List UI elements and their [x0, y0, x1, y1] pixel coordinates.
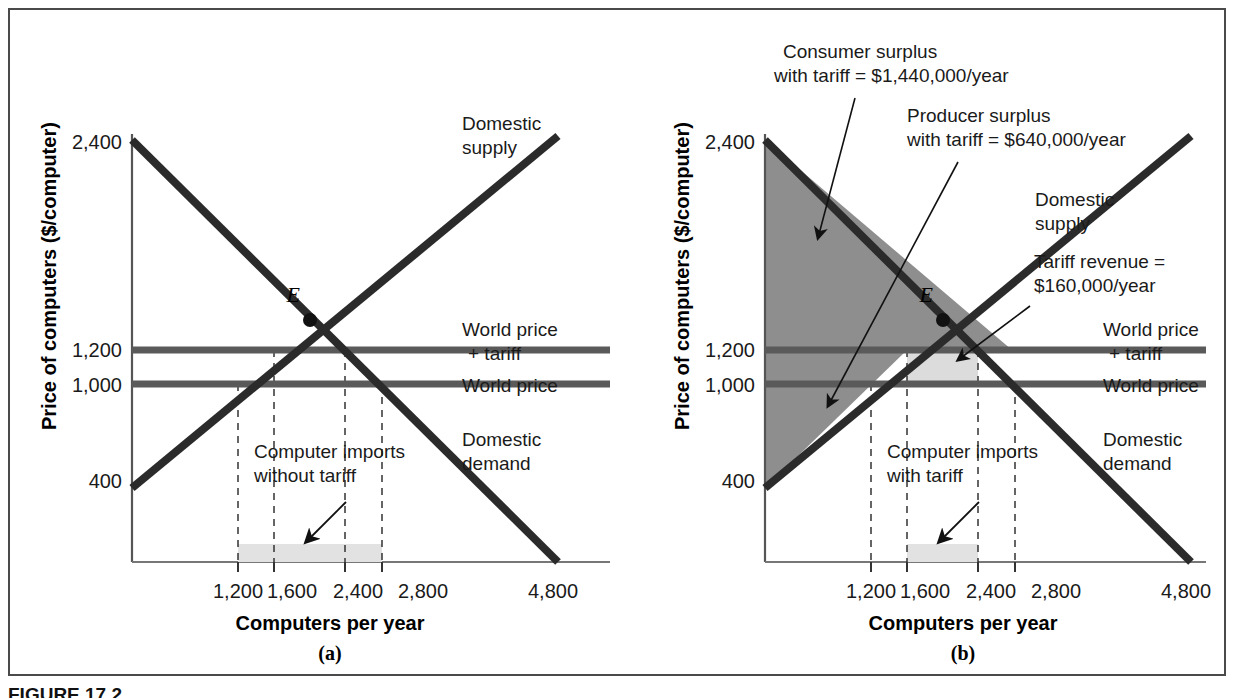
- panel-a-equilibrium-dot: [303, 313, 317, 327]
- figure-page: Price of computers ($/computer) 2,400 1,…: [0, 0, 1244, 699]
- panel-a-imports-label-line2: without tariff: [253, 465, 357, 486]
- panel-b-producer-surplus-label-line1: Producer surplus: [907, 105, 1051, 126]
- panel-b-producer-surplus-label-line2: with tariff = $640,000/year: [906, 129, 1126, 150]
- economics-diagram: Price of computers ($/computer) 2,400 1,…: [10, 10, 1224, 674]
- panel-a-demand-label-line1: Domestic: [462, 429, 541, 450]
- panel-a: Price of computers ($/computer) 2,400 1,…: [38, 113, 610, 665]
- panel-b-xtick-2800: 2,800: [1031, 580, 1081, 602]
- panel-a-xtick-1200: 1,200: [213, 580, 263, 602]
- panel-b-equilibrium-label: E: [919, 282, 934, 307]
- panel-a-ytick-400: 400: [89, 470, 122, 492]
- panel-b: Price of computers ($/computer) 2,400 1,…: [671, 41, 1211, 665]
- panel-a-xtick-4800: 4,800: [528, 580, 578, 602]
- panel-a-world-price-tariff-label-line1: World price: [462, 319, 558, 340]
- panel-b-ytick-1200: 1,200: [705, 339, 755, 361]
- panel-b-ytick-1000: 1,000: [705, 374, 755, 396]
- figure-caption: FIGURE 17.2: [8, 684, 408, 698]
- panel-b-ytick-2400: 2,400: [705, 131, 755, 153]
- panel-b-supply-label-line2: supply: [1035, 213, 1090, 234]
- panel-a-imports-label-line1: Computer imports: [254, 441, 405, 462]
- panel-a-equilibrium-label: E: [286, 282, 301, 307]
- panel-b-imports-label-line2: with tariff: [886, 465, 963, 486]
- panel-a-ytick-1000: 1,000: [72, 374, 122, 396]
- panel-b-tariff-revenue-label-line2: $160,000/year: [1034, 275, 1156, 296]
- panel-b-xtick-4800: 4,800: [1161, 580, 1211, 602]
- panel-b-consumer-surplus-label-line2: with tariff = $1,440,000/year: [773, 65, 1009, 86]
- panel-a-xtick-1600: 1,600: [267, 580, 317, 602]
- panel-a-x-axis-title: Computers per year: [236, 612, 425, 634]
- panel-a-world-price-label: World price: [462, 375, 558, 396]
- panel-b-xtick-1600: 1,600: [900, 580, 950, 602]
- panel-b-world-price-label: World price: [1103, 375, 1199, 396]
- panel-b-supply-label-line1: Domestic: [1035, 189, 1114, 210]
- panel-b-world-price-tariff-label-line1: World price: [1103, 319, 1199, 340]
- panel-b-demand-label-line2: demand: [1103, 453, 1172, 474]
- panel-b-x-axis-title: Computers per year: [869, 612, 1058, 634]
- panel-b-xtick-2400: 2,400: [966, 580, 1016, 602]
- panel-b-ytick-400: 400: [722, 470, 755, 492]
- figure-frame: Price of computers ($/computer) 2,400 1,…: [8, 8, 1226, 676]
- panel-a-demand-label-line2: demand: [462, 453, 531, 474]
- panel-a-xtick-2800: 2,800: [398, 580, 448, 602]
- panel-a-imports-arrow: [306, 502, 346, 542]
- panel-b-tariff-revenue-label-line1: Tariff revenue =: [1034, 251, 1165, 272]
- panel-b-imports-arrow: [939, 502, 979, 542]
- panel-a-y-axis-title: Price of computers ($/computer): [38, 122, 60, 430]
- panel-a-imports-bar: [238, 544, 382, 562]
- panel-b-consumer-surplus-label-line1: Consumer surplus: [783, 41, 937, 62]
- panel-b-equilibrium-dot: [936, 313, 950, 327]
- panel-a-ytick-2400: 2,400: [72, 131, 122, 153]
- panel-b-imports-bar: [907, 544, 978, 562]
- panel-b-demand-label-line1: Domestic: [1103, 429, 1182, 450]
- panel-b-world-price-tariff-label-line2: + tariff: [1109, 343, 1163, 364]
- panel-a-xtick-2400: 2,400: [333, 580, 383, 602]
- panel-a-world-price-tariff-label-line2: + tariff: [468, 343, 522, 364]
- panel-a-supply-label-line2: supply: [462, 137, 517, 158]
- panel-b-imports-label-line1: Computer imports: [887, 441, 1038, 462]
- panel-b-xtick-1200: 1,200: [846, 580, 896, 602]
- panel-a-label: (a): [318, 642, 341, 665]
- panel-b-label: (b): [951, 642, 975, 665]
- panel-a-ytick-1200: 1,200: [72, 339, 122, 361]
- panel-b-y-axis-title: Price of computers ($/computer): [671, 122, 693, 430]
- panel-a-supply-label-line1: Domestic: [462, 113, 541, 134]
- figure-caption-clipped: FIGURE 17.2: [8, 684, 408, 698]
